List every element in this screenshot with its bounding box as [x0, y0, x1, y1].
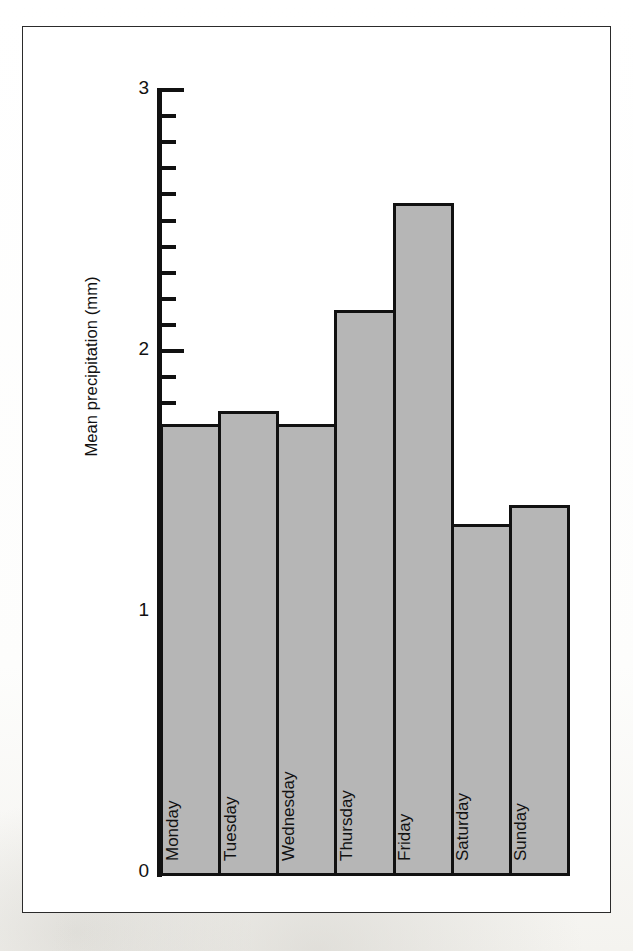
bar: Sunday	[509, 505, 570, 876]
bar-label: Thursday	[337, 790, 357, 861]
bar-label: Tuesday	[221, 796, 241, 861]
bar-column: Tuesday	[218, 411, 279, 876]
bar-column: Saturday	[451, 524, 512, 876]
bar-column: Friday	[393, 203, 454, 876]
bar-label: Wednesday	[279, 772, 299, 861]
bar: Monday	[160, 424, 221, 876]
bar-column: Monday	[160, 424, 221, 876]
bar-series: MondayTuesdayWednesdayThursdayFridaySatu…	[160, 90, 570, 876]
bar: Saturday	[451, 524, 512, 876]
figure-frame: 0123 Mean precipitation (mm) MondayTuesd…	[22, 26, 611, 913]
bar-label: Saturday	[453, 793, 473, 861]
bar-label: Sunday	[511, 803, 531, 861]
y-axis-tick-label: 0	[119, 860, 149, 882]
scanned-page: 0123 Mean precipitation (mm) MondayTuesd…	[0, 0, 633, 951]
bar: Friday	[393, 203, 454, 876]
bar-column: Thursday	[334, 310, 395, 876]
y-axis-tick-label: 2	[119, 338, 149, 360]
bar-label: Friday	[395, 814, 415, 861]
bar: Thursday	[334, 310, 395, 876]
bar-label: Monday	[163, 801, 183, 861]
bar-column: Sunday	[509, 505, 570, 876]
y-axis-tick-label: 1	[119, 599, 149, 621]
y-axis-title: Mean precipitation (mm)	[82, 217, 101, 517]
y-axis-tick-label: 3	[119, 77, 149, 99]
bar: Tuesday	[218, 411, 279, 876]
bar-chart-plot: 0123 Mean precipitation (mm) MondayTuesd…	[23, 27, 612, 914]
bar-column: Wednesday	[276, 424, 337, 876]
bar: Wednesday	[276, 424, 337, 876]
